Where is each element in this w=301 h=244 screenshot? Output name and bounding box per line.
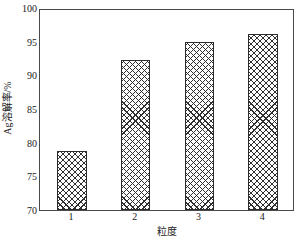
x-axis-label: 粒度 — [39, 227, 294, 237]
y-tick-label: 75 — [15, 172, 37, 182]
x-tick-label: 4 — [260, 212, 265, 222]
y-axis-label: Ag溶解率/% — [3, 81, 13, 134]
y-tick-label: 100 — [15, 4, 37, 14]
y-tick-label: 80 — [15, 139, 37, 149]
y-tick-label: 70 — [15, 206, 37, 216]
bar-series — [40, 10, 293, 210]
y-axis-tick-labels: 707580859095100 — [13, 0, 37, 244]
bar — [57, 151, 86, 210]
x-tick-label: 1 — [68, 212, 73, 222]
plot-area — [39, 9, 294, 211]
bar-chart-figure: Ag溶解率/% 707580859095100 1234 粒度 — [0, 0, 301, 244]
bar — [185, 42, 214, 210]
x-tick-label: 2 — [132, 212, 137, 222]
bar — [121, 60, 150, 210]
y-tick-label: 95 — [15, 38, 37, 48]
x-tick-label: 3 — [196, 212, 201, 222]
bar — [248, 34, 277, 210]
y-tick-label: 85 — [15, 105, 37, 115]
y-tick-label: 90 — [15, 71, 37, 81]
